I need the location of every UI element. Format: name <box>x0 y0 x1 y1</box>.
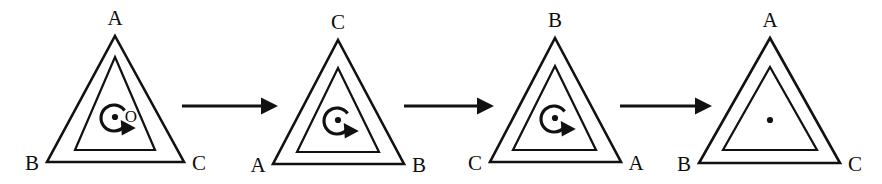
bottom-right-vertex-label: A <box>628 151 644 175</box>
panel-4: ABC <box>677 8 862 176</box>
apex-vertex-label: B <box>548 8 562 32</box>
rotation-arrowhead <box>344 123 359 139</box>
panel-3: BCA <box>468 8 644 175</box>
outer-triangle <box>273 40 404 164</box>
bottom-right-vertex-label: B <box>412 153 426 177</box>
inner-triangle <box>513 66 596 150</box>
arrow-1 <box>182 98 278 115</box>
bottom-right-vertex-label: C <box>192 151 206 175</box>
outer-triangle <box>47 36 184 162</box>
arrow-2 <box>404 98 494 115</box>
inner-triangle <box>297 68 379 152</box>
rotation-arrowhead <box>561 121 576 137</box>
apex-vertex-label: A <box>107 6 123 30</box>
transition-arrow-head <box>695 98 712 115</box>
transition-arrow-head <box>261 98 278 115</box>
apex-vertex-label: C <box>331 10 345 34</box>
center-dot <box>112 114 118 120</box>
outer-triangle <box>699 38 840 163</box>
center-point-label: O <box>125 107 137 126</box>
bottom-left-vertex-label: C <box>468 151 482 175</box>
bottom-left-vertex-label: B <box>25 151 39 175</box>
panel-2: CAB <box>250 10 426 177</box>
bottom-right-vertex-label: C <box>848 152 862 176</box>
bottom-left-vertex-label: A <box>250 153 266 177</box>
diagram-canvas: OABCCABBCAABC <box>0 0 882 184</box>
rotation-sequence-figure: OABCCABBCAABC <box>0 0 882 184</box>
bottom-left-vertex-label: B <box>677 152 691 176</box>
center-dot <box>552 115 558 121</box>
apex-vertex-label: A <box>762 8 778 32</box>
panel-1: OABC <box>25 6 206 175</box>
center-dot <box>767 117 773 123</box>
center-dot <box>335 117 341 123</box>
arrow-3 <box>620 98 712 115</box>
inner-triangle <box>723 67 817 150</box>
outer-triangle <box>490 38 621 162</box>
transition-arrow-head <box>477 98 494 115</box>
